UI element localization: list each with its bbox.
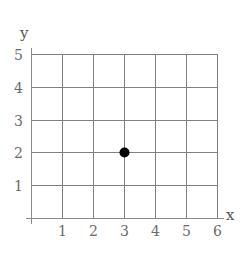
- x-tick-label-4: 4: [146, 224, 166, 238]
- x-tick-label-6: 6: [208, 224, 228, 238]
- x-tick-label-3: 3: [115, 224, 135, 238]
- y-tick-label-3: 3: [9, 114, 23, 128]
- y-tick-label-2: 2: [9, 146, 23, 160]
- x-tick-label-5: 5: [177, 224, 197, 238]
- y-tick-label-5: 5: [9, 48, 23, 62]
- x-tick-label-1: 1: [53, 224, 73, 238]
- y-tick-label-1: 1: [9, 179, 23, 193]
- x-tick-label-2: 2: [84, 224, 104, 238]
- data-point-3-2: [120, 148, 130, 158]
- y-axis-label: y: [20, 26, 28, 41]
- y-tick-label-4: 4: [9, 81, 23, 95]
- plot-background: [0, 0, 244, 260]
- coordinate-grid-plot: [0, 0, 244, 260]
- x-axis-label: x: [226, 208, 234, 223]
